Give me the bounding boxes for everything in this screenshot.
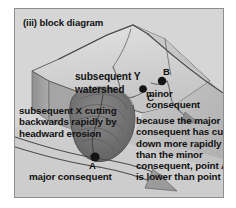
figure-canvas: (iii) block diagram subsequent Y watersh… <box>0 0 236 208</box>
point-a-marker <box>90 152 99 161</box>
block-diagram-panel: (iii) block diagram subsequent Y watersh… <box>14 8 224 198</box>
point-b-marker <box>158 77 166 85</box>
point-c-marker <box>139 85 147 93</box>
block-diagram-illustration <box>15 9 223 197</box>
